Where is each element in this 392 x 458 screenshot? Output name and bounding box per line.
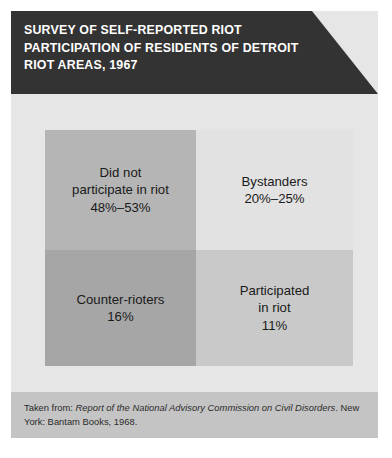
diagram-cell-bystanders-label: Bystanders 20%–25% — [242, 173, 308, 208]
diagram-cell-did-not-participate-label: Did not participate in riot 48%–53% — [72, 164, 169, 217]
counter-rioters-value: 16% — [107, 309, 133, 324]
riot-participation-diagram: Did not participate in riot 48%–53% Byst… — [11, 94, 378, 392]
figure-card: SURVEY OF SELF-REPORTED RIOT PARTICIPATI… — [11, 11, 378, 438]
counter-rioters-line-1: Counter-rioters — [77, 292, 165, 307]
citation-prefix: Taken from: — [24, 402, 76, 413]
diagram-cell-did-not-participate: Did not participate in riot 48%–53% — [45, 130, 196, 250]
diagram-cell-participated-in-riot: Participated in riot 11% — [196, 250, 353, 366]
citation-source-title: Report of the National Advisory Commissi… — [76, 402, 336, 413]
diagram-cell-bystanders: Bystanders 20%–25% — [196, 130, 353, 250]
bystanders-value: 20%–25% — [244, 191, 304, 206]
page-title-line-1: SURVEY OF SELF-REPORTED RIOT — [24, 22, 314, 40]
page-title-line-2: PARTICIPATION OF RESIDENTS OF DETROIT — [24, 40, 314, 58]
page-title-line-3: RIOT AREAS, 1967 — [24, 57, 314, 75]
diagram-cell-counter-rioters: Counter-rioters 16% — [45, 250, 196, 366]
participated-line-1: Participated — [240, 283, 310, 298]
did-not-participate-value: 48%–53% — [90, 200, 150, 215]
participated-value: 11% — [262, 318, 287, 333]
bystanders-line-1: Bystanders — [242, 174, 308, 189]
did-not-participate-line-1: Did not — [100, 165, 142, 180]
footer-band: Taken from: Report of the National Advis… — [11, 392, 378, 438]
source-citation: Taken from: Report of the National Advis… — [24, 401, 366, 428]
header-banner: SURVEY OF SELF-REPORTED RIOT PARTICIPATI… — [11, 11, 378, 94]
participated-line-2: in riot — [258, 300, 290, 315]
did-not-participate-line-2: participate in riot — [72, 182, 169, 197]
diagram-cell-counter-rioters-label: Counter-rioters 16% — [77, 291, 165, 326]
diagram-cell-participated-in-riot-label: Participated in riot 11% — [240, 282, 310, 335]
page-title: SURVEY OF SELF-REPORTED RIOT PARTICIPATI… — [24, 22, 314, 75]
